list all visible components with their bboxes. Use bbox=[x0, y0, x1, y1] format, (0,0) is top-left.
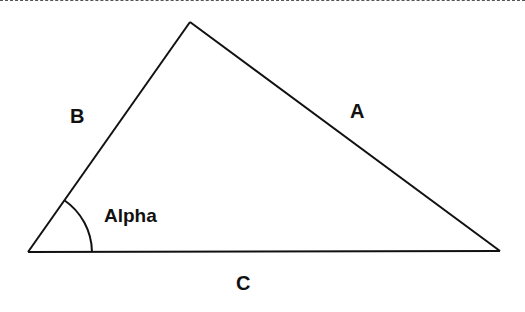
side-c-label: C bbox=[236, 273, 250, 293]
side-a-line bbox=[190, 22, 500, 251]
triangle-diagram: B A Alpha C bbox=[0, 0, 525, 312]
angle-alpha-arc bbox=[64, 200, 92, 252]
side-a-label: A bbox=[350, 101, 364, 121]
triangle-figure bbox=[0, 0, 525, 312]
side-b-label: B bbox=[70, 106, 84, 126]
angle-alpha-label: Alpha bbox=[104, 206, 157, 225]
side-c-line bbox=[28, 251, 500, 252]
